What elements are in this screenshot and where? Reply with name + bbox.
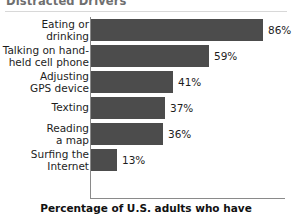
bar-eating-or-drinking	[91, 19, 263, 41]
bar-category-label: Talking on hand- held cell phone	[0, 45, 89, 68]
x-axis-line	[90, 198, 285, 199]
bar-chart-plot-area: Eating or drinking 86% Talking on hand- …	[0, 17, 292, 199]
bar-texting	[91, 97, 165, 119]
bar-row: Surfing the Internet 13%	[0, 147, 292, 173]
bar-value-label: 86%	[268, 24, 291, 36]
bar-value-label: 36%	[168, 128, 191, 140]
bar-surfing-the-internet	[91, 149, 117, 171]
bar-value-label: 59%	[214, 50, 237, 62]
x-axis-caption-strip: Percentage of U.S. adults who have	[0, 202, 292, 218]
chart-title-strip: Distracted Drivers	[0, 0, 292, 9]
bar-value-label: 13%	[122, 154, 145, 166]
bar-row: Reading a map 36%	[0, 121, 292, 147]
bar-row: Eating or drinking 86%	[0, 17, 292, 43]
bar-category-label: Adjusting GPS device	[0, 71, 89, 94]
bar-value-label: 37%	[170, 102, 193, 114]
x-axis-caption: Percentage of U.S. adults who have	[0, 202, 292, 214]
bar-category-label: Texting	[0, 102, 89, 114]
bar-row: Talking on hand- held cell phone 59%	[0, 43, 292, 69]
title-divider	[5, 11, 287, 12]
chart-title: Distracted Drivers	[6, 0, 126, 8]
bar-category-label: Surfing the Internet	[0, 149, 89, 172]
bar-category-label: Reading a map	[0, 123, 89, 146]
bar-category-label: Eating or drinking	[0, 19, 89, 42]
bar-row: Texting 37%	[0, 95, 292, 121]
bar-talking-on-handheld-cell-phone	[91, 45, 209, 67]
bar-row: Adjusting GPS device 41%	[0, 69, 292, 95]
bar-adjusting-gps-device	[91, 71, 173, 93]
bar-reading-a-map	[91, 123, 163, 145]
bar-value-label: 41%	[178, 76, 201, 88]
